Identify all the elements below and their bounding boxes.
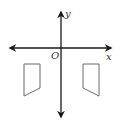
origin-label: O xyxy=(51,50,59,61)
coordinate-plane-diagram: y x O xyxy=(0,0,122,124)
right-quadrilateral xyxy=(83,64,99,96)
y-axis-label: y xyxy=(64,8,71,19)
left-quadrilateral xyxy=(24,64,40,96)
x-axis-label: x xyxy=(106,51,112,62)
